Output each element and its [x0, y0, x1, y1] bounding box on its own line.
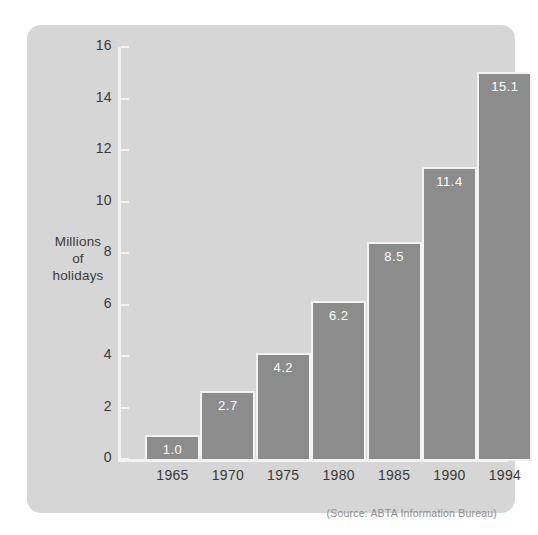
- plot-area: 0246810121416 1.02.74.26.28.511.415.1 19…: [118, 47, 505, 484]
- y-axis-tick-label: 16: [96, 37, 112, 53]
- y-axis-tick: 12: [121, 149, 129, 151]
- y-axis-tick-label: 4: [104, 346, 112, 362]
- y-axis-tick-label: 0: [104, 449, 112, 465]
- bar[interactable]: 2.7: [200, 391, 255, 461]
- x-axis-tick-label: 1990: [422, 467, 477, 483]
- y-axis-tick: 0: [121, 458, 129, 460]
- y-axis-tick-label: 6: [104, 295, 112, 311]
- bar[interactable]: 15.1: [477, 72, 532, 461]
- y-axis-tick: 16: [121, 46, 129, 48]
- bar-value-label: 6.2: [313, 308, 364, 323]
- bar[interactable]: 6.2: [311, 301, 366, 461]
- y-axis-tick: 8: [121, 252, 129, 254]
- bar-value-label: 2.7: [202, 398, 253, 413]
- x-axis-tick-label: 1980: [311, 467, 366, 483]
- bar[interactable]: 4.2: [256, 353, 311, 461]
- y-axis-line: [118, 47, 121, 462]
- bar-value-label: 15.1: [479, 79, 530, 94]
- y-axis-tick: 6: [121, 304, 129, 306]
- bar-value-label: 1.0: [147, 442, 198, 457]
- y-axis-tick: 10: [121, 201, 129, 203]
- x-axis-tick-label: 1994: [477, 467, 532, 483]
- bar-value-label: 8.5: [369, 249, 420, 264]
- y-axis-tick-label: 12: [96, 140, 112, 156]
- y-axis-tick: 14: [121, 98, 129, 100]
- bar[interactable]: 8.5: [367, 242, 422, 461]
- y-axis-tick-label: 10: [96, 192, 112, 208]
- x-axis-tick-label: 1975: [256, 467, 311, 483]
- x-axis-tick-label: 1970: [200, 467, 255, 483]
- y-axis-title-line-3: holidays: [39, 267, 117, 284]
- x-axis-tick-label: 1965: [145, 467, 200, 483]
- bar-value-label: 11.4: [424, 174, 475, 189]
- bar-value-label: 4.2: [258, 360, 309, 375]
- source-note: (Source: ABTA Information Bureau): [327, 507, 497, 519]
- y-axis-tick-label: 14: [96, 89, 112, 105]
- y-axis-tick-label: 8: [104, 243, 112, 259]
- y-axis-tick: 4: [121, 355, 129, 357]
- x-axis-tick-label: 1985: [367, 467, 422, 483]
- bar[interactable]: 1.0: [145, 435, 200, 461]
- bar[interactable]: 11.4: [422, 167, 477, 461]
- y-axis-tick-label: 2: [104, 398, 112, 414]
- y-axis-tick: 2: [121, 407, 129, 409]
- chart-panel: Millions of holidays 0246810121416 1.02.…: [27, 25, 515, 513]
